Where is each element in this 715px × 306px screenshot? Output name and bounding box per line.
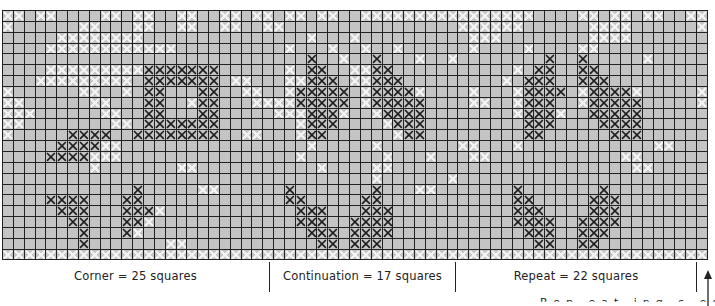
ground-cell: [46, 174, 57, 185]
ground-cell: [46, 217, 57, 228]
cross-stitch-icon: [111, 76, 121, 86]
ground-cell: [231, 109, 242, 120]
ground-cell: [231, 130, 242, 141]
ground-cell: [437, 87, 448, 98]
light-stitch-cell: [632, 87, 643, 98]
ground-cell: [252, 217, 263, 228]
cross-stitch-icon: [361, 65, 371, 75]
ground-cell: [502, 174, 513, 185]
ground-cell: [46, 228, 57, 239]
ground-cell: [697, 239, 708, 250]
cross-stitch-icon: [643, 163, 653, 173]
ground-cell: [643, 130, 654, 141]
ground-cell: [448, 65, 459, 76]
cross-stitch-icon: [393, 87, 403, 97]
dark-stitch-cell: [599, 109, 610, 120]
dark-stitch-cell: [144, 65, 155, 76]
cross-stitch-icon: [372, 109, 382, 119]
ground-cell: [155, 239, 166, 250]
light-stitch-cell: [111, 109, 122, 120]
light-stitch-cell: [697, 98, 708, 109]
light-stitch-cell: [383, 11, 394, 22]
cross-stitch-icon: [122, 228, 132, 238]
ground-cell: [155, 163, 166, 174]
ground-cell: [643, 22, 654, 33]
cross-stitch-icon: [101, 152, 111, 162]
dark-stitch-cell: [361, 206, 372, 217]
ground-cell: [502, 163, 513, 174]
light-stitch-cell: [469, 152, 480, 163]
cross-stitch-icon: [339, 54, 349, 64]
ground-cell: [556, 163, 567, 174]
dark-stitch-cell: [372, 228, 383, 239]
cross-stitch-icon: [122, 65, 132, 75]
ground-cell: [350, 119, 361, 130]
ground-cell: [274, 119, 285, 130]
dark-stitch-cell: [90, 141, 101, 152]
corner-label: Corner = 25 squares: [2, 262, 269, 290]
ground-cell: [307, 239, 318, 250]
ground-cell: [339, 163, 350, 174]
cross-stitch-icon: [252, 98, 262, 108]
ground-cell: [350, 54, 361, 65]
ground-cell: [252, 76, 263, 87]
ground-cell: [361, 119, 372, 130]
ground-cell: [372, 44, 383, 55]
light-stitch-cell: [3, 119, 14, 130]
ground-cell: [90, 217, 101, 228]
dark-stitch-cell: [534, 65, 545, 76]
cross-stitch-icon: [383, 98, 393, 108]
dark-stitch-cell: [404, 109, 415, 120]
light-stitch-cell: [480, 11, 491, 22]
ground-cell: [697, 44, 708, 55]
cross-stitch-icon: [524, 119, 534, 129]
ground-cell: [14, 76, 25, 87]
dark-stitch-cell: [155, 65, 166, 76]
ground-cell: [426, 163, 437, 174]
ground-cell: [339, 217, 350, 228]
ground-cell: [448, 152, 459, 163]
cross-stitch-icon: [57, 76, 67, 86]
ground-cell: [339, 76, 350, 87]
ground-cell: [166, 228, 177, 239]
ground-cell: [686, 185, 697, 196]
ground-cell: [469, 239, 480, 250]
cross-stitch-icon: [166, 65, 176, 75]
cross-stitch-icon: [79, 76, 89, 86]
cross-stitch-icon: [144, 11, 154, 21]
light-stitch-cell: [242, 87, 253, 98]
ground-cell: [36, 109, 47, 120]
cross-stitch-icon: [383, 206, 393, 216]
light-stitch-cell: [686, 11, 697, 22]
cross-stitch-icon: [578, 65, 588, 75]
cross-stitch-icon: [415, 119, 425, 129]
light-stitch-cell: [274, 22, 285, 33]
cross-stitch-icon: [285, 11, 295, 21]
dark-stitch-cell: [307, 217, 318, 228]
cross-stitch-icon: [524, 11, 534, 21]
ground-cell: [415, 163, 426, 174]
cross-stitch-icon: [654, 250, 664, 260]
cross-stitch-icon: [111, 44, 121, 54]
ground-cell: [502, 141, 513, 152]
cross-stitch-icon: [469, 141, 479, 151]
ground-cell: [404, 44, 415, 55]
ground-cell: [469, 217, 480, 228]
ground-cell: [664, 185, 675, 196]
cross-stitch-icon: [90, 250, 100, 260]
cross-stitch-icon: [177, 119, 187, 129]
ground-cell: [654, 217, 665, 228]
cross-stitch-icon: [513, 65, 523, 75]
ground-cell: [404, 185, 415, 196]
light-stitch-cell: [415, 87, 426, 98]
cross-stitch-icon: [57, 141, 67, 151]
cross-stitch-icon: [133, 185, 143, 195]
ground-cell: [383, 33, 394, 44]
dark-stitch-cell: [79, 141, 90, 152]
ground-cell: [426, 22, 437, 33]
ground-cell: [578, 33, 589, 44]
ground-cell: [25, 65, 36, 76]
dark-stitch-cell: [632, 130, 643, 141]
light-stitch-cell: [263, 250, 274, 261]
ground-cell: [686, 239, 697, 250]
